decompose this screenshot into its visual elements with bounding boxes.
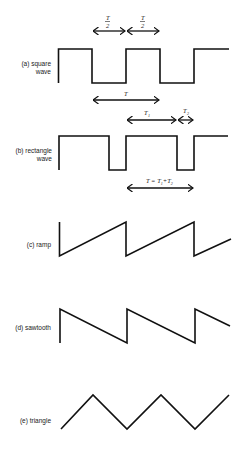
svg-text:2: 2: [141, 22, 145, 29]
label-triangle: (e) triangle: [0, 417, 51, 425]
svg-text:2: 2: [187, 111, 189, 116]
period-T-equals-T1-plus-T2-arrow: T = T1+T2: [127, 177, 193, 188]
period-T-arrow: T: [93, 90, 159, 100]
label-sawtooth: (d) sawtooth: [0, 324, 51, 332]
label-ramp: (c) ramp: [0, 241, 51, 249]
svg-text:T: T: [124, 90, 128, 97]
svg-text:T = T1+T2: T = T1+T2: [146, 177, 173, 186]
ramp-wave: [60, 222, 232, 256]
high-time-T1-arrow: T 1: [127, 109, 176, 120]
svg-text:1: 1: [148, 113, 150, 118]
sawtooth-wave: [60, 309, 230, 343]
half-period-label-2: T 2: [140, 14, 145, 29]
label-rectangle-wave: (b) rectangle wave: [0, 147, 52, 162]
triangle-wave: [61, 395, 229, 429]
svg-text:2: 2: [106, 22, 110, 29]
low-time-T2-arrow: T 2: [178, 107, 193, 120]
svg-text:T: T: [106, 14, 110, 21]
half-period-label-1: T 2: [105, 14, 110, 29]
rectangle-wave: [59, 136, 228, 170]
square-wave: [59, 49, 230, 83]
label-square-wave: (a) square wave: [0, 60, 51, 75]
svg-text:T: T: [141, 14, 145, 21]
